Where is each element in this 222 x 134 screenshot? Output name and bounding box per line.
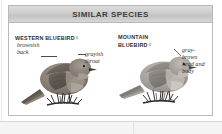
species-label-mountain-bluebird: MOUNTAIN BLUEBIRD♀ bbox=[118, 27, 153, 50]
annotation-brownish-back: brownish back bbox=[17, 42, 39, 56]
annotation-grayish-throat: grayish throat bbox=[85, 51, 103, 65]
panel-header: SIMILAR SPECIES bbox=[9, 6, 212, 23]
species-label-western-bluebird: WESTERN BLUEBIRD♀ bbox=[15, 27, 80, 42]
female-symbol-western: ♀ bbox=[75, 34, 80, 41]
illustration-plate: WESTERN BLUEBIRD♀ MOUNTAIN BLUEBIRD♀ bro… bbox=[9, 23, 212, 115]
page-left-rule bbox=[1, 0, 2, 121]
annotation-gray-brown-head-and-body: gray- brown head and body bbox=[182, 47, 212, 75]
similar-species-panel: SIMILAR SPECIES bbox=[8, 5, 213, 116]
female-symbol-mountain: ♀ bbox=[148, 41, 153, 48]
species-name-mountain: MOUNTAIN BLUEBIRD bbox=[118, 34, 148, 48]
species-name-western: WESTERN BLUEBIRD bbox=[15, 35, 75, 41]
page-column-rule bbox=[133, 122, 134, 134]
page-bottom-band bbox=[0, 121, 222, 134]
panel-title: SIMILAR SPECIES bbox=[72, 10, 149, 19]
